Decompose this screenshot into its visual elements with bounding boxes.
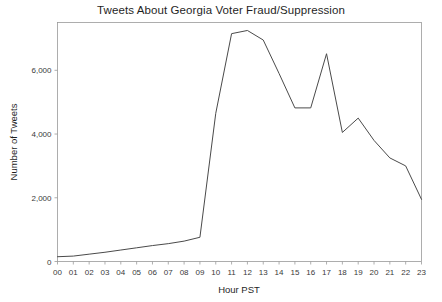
- y-tick-label: 6,000: [31, 66, 52, 75]
- chart-figure: Tweets About Georgia Voter Fraud/Suppres…: [0, 0, 442, 302]
- x-tick-label: 09: [195, 268, 204, 277]
- y-axis-ticks: 02,0004,0006,000: [31, 66, 57, 266]
- x-axis-ticks: 0001020304050607080910111213141516171819…: [53, 262, 426, 277]
- x-tick-label: 13: [259, 268, 268, 277]
- y-tick-label: 0: [47, 258, 52, 267]
- x-tick-label: 19: [354, 268, 363, 277]
- data-series-group: [58, 30, 422, 256]
- x-tick-label: 00: [53, 268, 62, 277]
- y-tick-label: 4,000: [31, 130, 52, 139]
- x-tick-label: 08: [180, 268, 189, 277]
- x-tick-label: 06: [148, 268, 157, 277]
- x-tick-label: 23: [417, 268, 426, 277]
- x-tick-label: 22: [401, 268, 410, 277]
- x-tick-label: 03: [101, 268, 110, 277]
- x-tick-label: 04: [116, 268, 125, 277]
- x-axis-title: Hour PST: [218, 284, 260, 295]
- data-line-tweets: [58, 30, 422, 256]
- x-tick-label: 10: [211, 268, 220, 277]
- line-chart-plot: 02,0004,0006,000 00010203040506070809101…: [0, 0, 442, 302]
- x-tick-label: 17: [322, 268, 331, 277]
- x-tick-label: 11: [227, 268, 236, 277]
- x-tick-label: 05: [132, 268, 141, 277]
- x-tick-label: 12: [243, 268, 252, 277]
- y-tick-label: 2,000: [31, 194, 52, 203]
- x-tick-label: 02: [85, 268, 94, 277]
- x-tick-label: 20: [370, 268, 379, 277]
- x-tick-label: 14: [275, 268, 284, 277]
- x-tick-label: 16: [306, 268, 315, 277]
- x-tick-label: 07: [164, 268, 173, 277]
- y-axis-title: Number of Tweets: [8, 103, 19, 180]
- x-tick-label: 01: [69, 268, 78, 277]
- x-tick-label: 15: [290, 268, 299, 277]
- plot-frame: [58, 23, 422, 262]
- x-tick-label: 18: [338, 268, 347, 277]
- x-tick-label: 21: [385, 268, 394, 277]
